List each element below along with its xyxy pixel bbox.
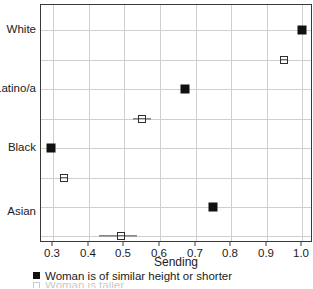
gridline-horizontal-row-0 (41, 30, 311, 31)
gridline-horizontal-row-2 (41, 89, 311, 90)
chart-figure: White Latino/a Black Asian (0, 0, 313, 289)
data-point-white-taller[interactable] (280, 56, 288, 64)
legend-entry-taller[interactable]: Woman is taller (33, 282, 313, 288)
data-point-latino-taller[interactable] (138, 115, 146, 123)
data-point-black-taller[interactable] (60, 174, 68, 182)
x-tick-4 (195, 242, 196, 246)
data-point-asian-taller[interactable] (117, 232, 125, 240)
y-axis-label-latino: Latino/a (0, 82, 36, 94)
y-axis-label-asian: Asian (7, 205, 36, 217)
legend-marker-open-square (33, 282, 40, 288)
x-tick-7 (301, 242, 302, 246)
chart-legend: Woman is of similar height or shorter Wo… (33, 269, 313, 288)
data-point-black-similar[interactable] (47, 144, 56, 153)
gridline-horizontal-row-6 (41, 207, 311, 208)
legend-entry-similar[interactable]: Woman is of similar height or shorter (33, 269, 313, 282)
legend-label-taller: Woman is taller (45, 282, 124, 288)
data-point-asian-similar[interactable] (209, 203, 218, 212)
gridline-horizontal-row-3 (41, 119, 311, 120)
gridline-vertical-0.9 (267, 5, 268, 241)
y-axis-label-black: Black (8, 141, 36, 153)
gridline-vertical-0.7 (196, 5, 197, 241)
gridline-vertical-0.4 (89, 5, 90, 241)
x-tick-6 (266, 242, 267, 246)
x-tick-0 (52, 242, 53, 246)
x-axis-title: Sending (40, 255, 312, 269)
plot-area (40, 4, 312, 242)
x-tick-3 (159, 242, 160, 246)
data-point-white-similar[interactable] (298, 26, 307, 35)
y-axis-label-white: White (7, 23, 36, 35)
legend-label-similar: Woman is of similar height or shorter (45, 270, 232, 282)
x-tick-2 (123, 242, 124, 246)
legend-marker-filled-square (33, 272, 40, 279)
gridline-horizontal-row-4 (41, 148, 311, 149)
y-axis-labels: White Latino/a Black Asian (0, 0, 36, 289)
gridline-horizontal-row-5 (41, 178, 311, 179)
data-point-latino-similar[interactable] (181, 85, 190, 94)
gridline-vertical-0.3 (53, 5, 54, 241)
gridline-vertical-1.0 (302, 5, 303, 241)
gridline-horizontal-row-7 (41, 236, 311, 237)
gridline-vertical-0.5 (124, 5, 125, 241)
gridline-horizontal-row-1 (41, 60, 311, 61)
x-tick-1 (88, 242, 89, 246)
gridline-vertical-0.6 (160, 5, 161, 241)
gridline-vertical-0.8 (231, 5, 232, 241)
x-tick-5 (230, 242, 231, 246)
